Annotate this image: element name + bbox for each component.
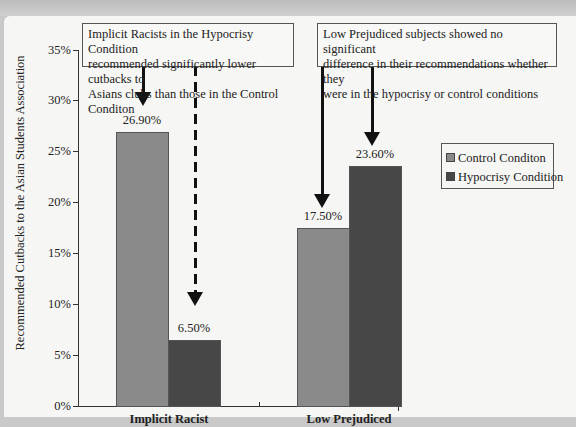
legend-label: Hypocrisy Condition (458, 170, 563, 184)
xtick-mark (259, 402, 260, 407)
bar-implicit-racist-hypocrisy (168, 340, 221, 407)
x-category-label: Implicit Racist (89, 412, 249, 427)
top-band (0, 0, 576, 16)
ytick-25: 25% (31, 144, 71, 158)
annotation-line: difference in their recommendations whet… (323, 57, 551, 87)
arrow-down-icon (187, 292, 203, 306)
ytick-30: 30% (31, 93, 71, 107)
annotation-line: were in the hypocrisy or control conditi… (323, 87, 551, 102)
value-label: 6.50% (159, 321, 229, 336)
ytick-0: 0% (31, 399, 71, 413)
legend: Control Conditon Hypocrisy Condition (441, 143, 554, 189)
arrow-down-icon (314, 194, 330, 208)
value-label: 23.60% (340, 147, 410, 162)
control-swatch-icon (446, 153, 455, 162)
x-category-label: Low Prejudiced (269, 412, 429, 427)
bar-low-prejudiced-control (297, 228, 350, 407)
annotation-line: Implicit Racists in the Hypocrisy Condit… (88, 27, 288, 57)
annotation-line: recommended significantly lower cutbacks… (88, 57, 288, 87)
y-axis-label: Recommended Cutbacks to the Asian Studen… (13, 91, 28, 351)
ytick-35: 35% (31, 43, 71, 57)
ytick-20: 20% (31, 195, 71, 209)
ytick-5: 5% (31, 348, 71, 362)
ytick-15: 15% (31, 246, 71, 260)
value-label: 17.50% (288, 209, 358, 224)
annotation-implicit-racist: Implicit Racists in the Hypocrisy Condit… (82, 23, 294, 67)
y-axis (78, 50, 79, 407)
legend-item-control: Control Conditon (446, 151, 546, 166)
annotation-low-prejudiced: Low Prejudiced subjects showed no signif… (317, 23, 557, 67)
bar-low-prejudiced-hypocrisy (349, 166, 402, 407)
ytick-10: 10% (31, 297, 71, 311)
legend-label: Control Conditon (458, 151, 546, 165)
legend-item-hypocrisy: Hypocrisy Condition (446, 170, 563, 185)
hypocrisy-swatch-icon (446, 172, 455, 181)
bar-implicit-racist-control (116, 132, 169, 407)
annotation-line: Asians clubs than those in the Control C… (88, 87, 288, 117)
annotation-line: Low Prejudiced subjects showed no signif… (323, 27, 551, 57)
arrow-down-icon (364, 132, 380, 146)
